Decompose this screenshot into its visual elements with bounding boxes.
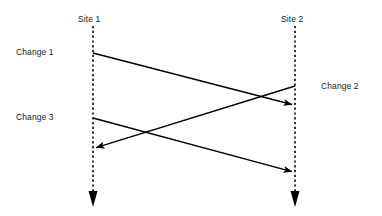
message-label-change-1: Change 1 [16,47,54,57]
lifeline-site2 [291,26,300,207]
lifeline-site2-arrowhead [291,191,300,207]
message-arrow-change-3 [93,118,292,172]
message-arrow-change-2 [96,86,295,148]
lifeline-label-site2: Site 2 [281,14,303,24]
message-label-change-2: Change 2 [321,81,359,91]
lifeline-site1-arrowhead [89,191,98,207]
message-label-change-3: Change 3 [16,112,54,122]
sequence-diagram-canvas: Site 1 Site 2 Change 1 Change 2 Change 3 [0,0,382,216]
lifeline-label-site1: Site 1 [78,14,100,24]
diagram-svg [0,0,382,216]
